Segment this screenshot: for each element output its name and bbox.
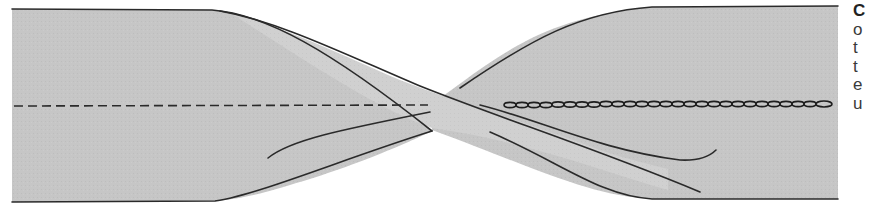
caption-line-6: u bbox=[853, 95, 870, 114]
caption-line-5: e bbox=[853, 76, 870, 95]
cropped-caption-text: C o t t e u bbox=[853, 2, 870, 113]
caption-line-4: t bbox=[853, 58, 870, 77]
caption-line-2: o bbox=[853, 21, 870, 40]
caption-line-3: t bbox=[853, 39, 870, 58]
caption-line-1: C bbox=[853, 2, 870, 21]
